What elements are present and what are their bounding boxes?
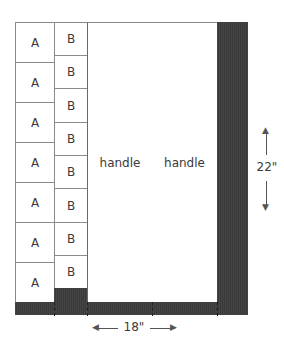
piece-a-label: A <box>31 116 39 130</box>
piece-b-label: B <box>67 265 75 279</box>
dimension-line <box>266 131 267 155</box>
arrow-down-icon: ▼ <box>262 203 269 212</box>
piece-a-label: A <box>31 36 39 50</box>
piece-b-4: B <box>54 122 88 156</box>
piece-b-label: B <box>67 132 75 146</box>
piece-b-7: B <box>54 222 88 256</box>
handle-piece-2: handle <box>152 22 218 303</box>
piece-a-2: A <box>15 62 55 103</box>
fold-line <box>152 302 153 316</box>
piece-a-3: A <box>15 102 55 143</box>
piece-a-label: A <box>31 276 39 290</box>
handle-piece-1: handle <box>87 22 153 303</box>
handle-label: handle <box>164 156 205 170</box>
piece-a-4: A <box>15 142 55 183</box>
dark-block-b <box>54 288 87 315</box>
piece-a-7: A <box>15 262 55 303</box>
piece-b-6: B <box>54 188 88 223</box>
width-label: 18" <box>119 320 149 334</box>
piece-b-label: B <box>67 232 75 246</box>
piece-a-label: A <box>31 76 39 90</box>
piece-b-5: B <box>54 155 88 189</box>
piece-b-label: B <box>67 99 75 113</box>
fold-line <box>54 302 55 316</box>
piece-b-label: B <box>67 32 75 46</box>
height-label: 22" <box>252 160 282 174</box>
handle-label: handle <box>100 156 141 170</box>
fold-line <box>217 302 218 316</box>
piece-a-1: A <box>15 22 55 63</box>
piece-b-label: B <box>67 199 75 213</box>
piece-a-label: A <box>31 196 39 210</box>
dark-strip-bottom <box>15 302 248 315</box>
piece-a-label: A <box>31 236 39 250</box>
piece-b-3: B <box>54 88 88 123</box>
piece-b-2: B <box>54 55 88 89</box>
dimension-line <box>96 328 118 329</box>
piece-b-8: B <box>54 255 88 289</box>
arrow-right-icon: ▶ <box>170 323 177 332</box>
height-dimension: ▲ 22" ▼ <box>252 126 282 212</box>
piece-a-5: A <box>15 182 55 223</box>
width-dimension: ◀ 18" ▶ <box>92 320 176 336</box>
dimension-line <box>150 328 172 329</box>
piece-a-label: A <box>31 156 39 170</box>
piece-b-label: B <box>67 165 75 179</box>
fold-line <box>87 302 88 316</box>
dark-strip-right <box>217 22 248 315</box>
piece-b-label: B <box>67 65 75 79</box>
piece-b-1: B <box>54 22 88 56</box>
piece-a-6: A <box>15 222 55 263</box>
